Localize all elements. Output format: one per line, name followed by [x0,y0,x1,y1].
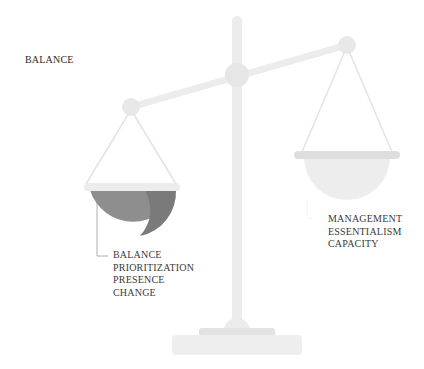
left-label-item: BALANCE [113,249,194,262]
page-title: BALANCE [25,54,74,65]
right-callout-line [307,200,312,218]
right-pan-rim [294,151,400,159]
left-label-item: PRIORITIZATION [113,262,194,275]
left-string [86,113,129,184]
right-label-item: CAPACITY [328,238,402,251]
left-pan-rim [84,183,180,191]
right-string [349,51,392,152]
right-label-item: MANAGEMENT [328,213,402,226]
right-pan-bowl [304,157,390,200]
left-label-item: PRESENCE [113,274,194,287]
left-label-item: CHANGE [113,287,194,300]
left-pan-labels: BALANCE PRIORITIZATION PRESENCE CHANGE [113,249,194,299]
right-string [302,51,345,152]
left-string [133,113,176,184]
right-hanger-knob [338,36,356,54]
left-hanger-knob [122,98,140,116]
right-label-item: ESSENTIALISM [328,226,402,239]
right-pan-labels: MANAGEMENT ESSENTIALISM CAPACITY [328,213,402,251]
scale-base-bottom [172,335,302,355]
scale-pivot [225,63,249,87]
